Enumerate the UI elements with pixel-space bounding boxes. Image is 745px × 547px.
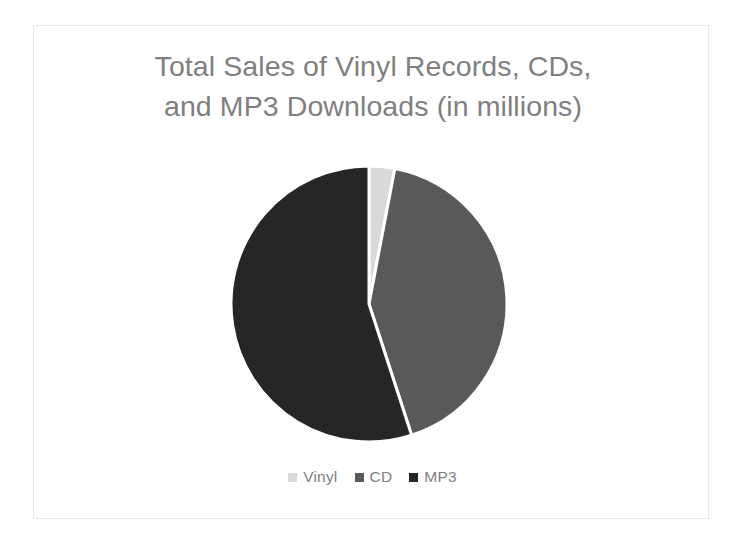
legend-swatch-cd: [355, 473, 364, 482]
pie-chart-plot-area: [0, 0, 745, 547]
legend-swatch-vinyl: [288, 473, 297, 482]
chart-legend: Vinyl CD MP3: [0, 468, 745, 486]
legend-item-cd[interactable]: CD: [355, 468, 393, 486]
legend-label-cd: CD: [370, 468, 393, 486]
legend-label-vinyl: Vinyl: [303, 468, 337, 486]
legend-swatch-mp3: [409, 473, 418, 482]
legend-item-mp3[interactable]: MP3: [409, 468, 456, 486]
legend-label-mp3: MP3: [424, 468, 456, 486]
pie-chart-svg: [229, 164, 509, 444]
slide-canvas: Total Sales of Vinyl Records, CDs, and M…: [0, 0, 745, 547]
pie-slices-group: [231, 166, 507, 442]
legend-item-vinyl[interactable]: Vinyl: [288, 468, 337, 486]
